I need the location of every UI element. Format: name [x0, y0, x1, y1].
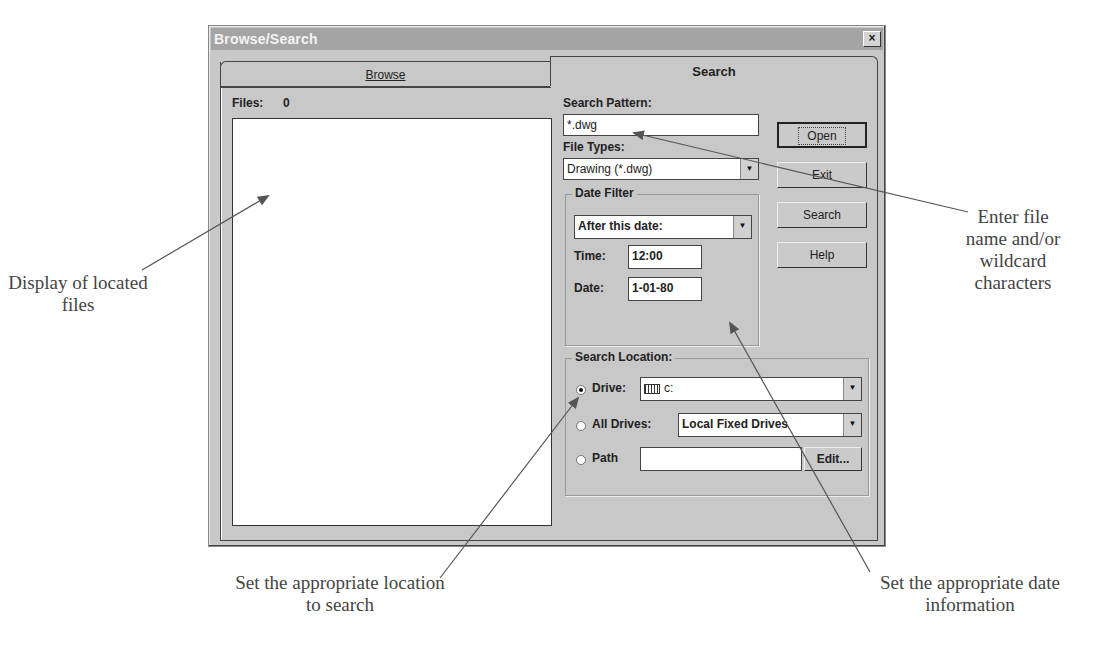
date-label: Date:: [574, 281, 604, 295]
page-caption: were created.: [0, 0, 128, 5]
drive-label: Drive:: [592, 381, 626, 395]
tab-divider: [221, 87, 551, 88]
tab-search-label: Search: [692, 64, 735, 79]
file-types-select[interactable]: Drawing (*.dwg) ▼: [563, 158, 759, 180]
drive-icon: [644, 384, 660, 394]
callout-set-date: Set the appropriate date information: [860, 572, 1080, 616]
file-types-value: Drawing (*.dwg): [567, 162, 652, 176]
date-mode-value: After this date:: [578, 219, 663, 233]
files-listbox[interactable]: [232, 118, 552, 526]
files-label: Files:: [232, 96, 263, 110]
drive-radio[interactable]: [576, 385, 586, 395]
search-pattern-input[interactable]: *.dwg: [563, 114, 759, 136]
tab-browse-label: Browse: [365, 68, 405, 82]
time-input[interactable]: 12:00: [628, 245, 702, 269]
dialog-title: Browse/Search: [214, 31, 318, 47]
drive-value: c:: [664, 381, 673, 395]
file-types-label: File Types:: [563, 140, 625, 154]
date-filter-group: Date Filter After this date: ▼ Time: 12:…: [565, 194, 759, 346]
drive-select[interactable]: c: ▼: [640, 377, 862, 401]
chevron-down-icon[interactable]: ▼: [843, 414, 861, 436]
search-pattern-label: Search Pattern:: [563, 96, 652, 110]
browse-search-dialog: Browse/Search × Browse Search Files: 0 S…: [208, 25, 886, 547]
path-input[interactable]: [640, 447, 802, 471]
edit-button[interactable]: Edit...: [804, 447, 862, 471]
date-filter-title: Date Filter: [572, 186, 637, 200]
time-label: Time:: [574, 249, 606, 263]
search-location-group: Search Location: Drive: c: ▼ All Drives:…: [565, 358, 869, 496]
chevron-down-icon[interactable]: ▼: [740, 159, 758, 179]
callout-enter-filename: Enter file name and/or wildcard characte…: [958, 206, 1068, 294]
exit-button[interactable]: Exit: [777, 162, 867, 188]
chevron-down-icon[interactable]: ▼: [733, 216, 751, 238]
all-drives-label: All Drives:: [592, 417, 651, 431]
files-count: 0: [283, 96, 290, 110]
all-drives-select[interactable]: Local Fixed Drives ▼: [678, 413, 862, 437]
title-bar[interactable]: Browse/Search ×: [211, 28, 883, 50]
path-radio[interactable]: [576, 455, 586, 465]
close-button[interactable]: ×: [863, 31, 881, 47]
chevron-down-icon[interactable]: ▼: [843, 378, 861, 400]
open-button-label: Open: [799, 128, 844, 144]
tab-search[interactable]: Search: [550, 56, 878, 86]
close-icon: ×: [868, 31, 875, 45]
date-mode-select[interactable]: After this date: ▼: [574, 215, 752, 239]
callout-set-location: Set the appropriate location to search: [230, 572, 450, 616]
help-button[interactable]: Help: [777, 242, 867, 268]
path-label: Path: [592, 451, 618, 465]
all-drives-radio[interactable]: [576, 421, 586, 431]
search-location-title: Search Location:: [572, 350, 675, 364]
tab-browse[interactable]: Browse: [220, 61, 550, 87]
date-input[interactable]: 1-01-80: [628, 277, 702, 301]
all-drives-value: Local Fixed Drives: [682, 417, 788, 431]
callout-display-files: Display of located files: [0, 272, 156, 316]
search-button[interactable]: Search: [777, 202, 867, 228]
open-button[interactable]: Open: [777, 122, 867, 148]
tab-panel: Browse Search Files: 0 Search Pattern: *…: [220, 62, 878, 541]
